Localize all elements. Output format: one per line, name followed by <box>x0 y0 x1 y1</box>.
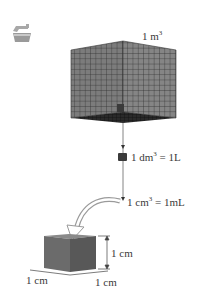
label-1m3: 1 m3 <box>142 29 162 42</box>
cube-1m3 <box>71 41 176 123</box>
dimension-width-right-label: 1 cm <box>95 276 117 288</box>
dimension-width-left-label: 1 cm <box>26 274 48 286</box>
cube-1dm3 <box>118 153 127 161</box>
magnify-curved-arrow <box>67 200 120 240</box>
dimension-height-label: 1 cm <box>111 247 133 259</box>
laboratory-sink-icon <box>13 24 31 42</box>
label-1cm3: 1 cm3 = 1mL <box>127 195 185 208</box>
scale-down-arrow <box>121 123 125 201</box>
label-1dm3: 1 dm3 = 1L <box>131 150 181 163</box>
cube-1cm3 <box>44 234 96 272</box>
